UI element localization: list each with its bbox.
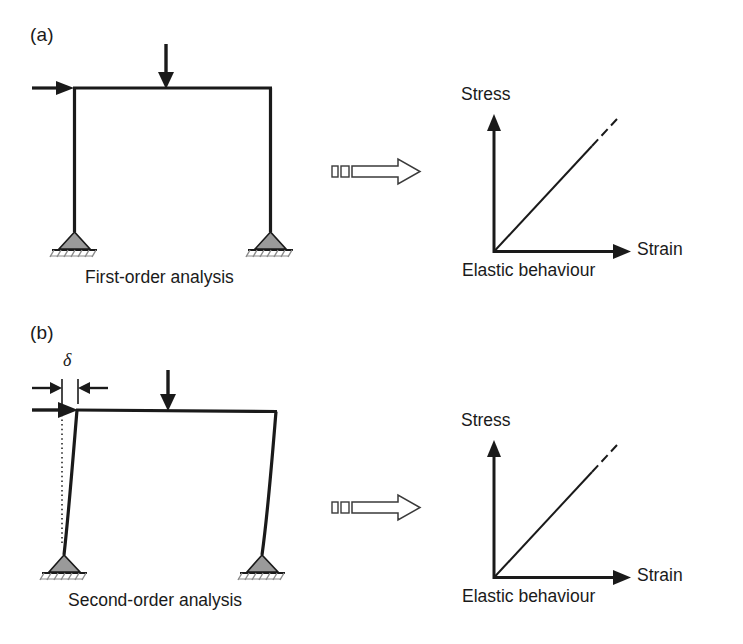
horizontal-load-arrow <box>32 402 78 418</box>
ground-hatch-left <box>40 573 86 580</box>
chart-y-axis-arrowhead <box>487 114 501 131</box>
block-arrow-right-icon <box>332 495 420 520</box>
frame-column-right <box>262 412 276 556</box>
vertical-load-arrow <box>158 44 174 89</box>
ground-hatch-left <box>50 250 96 257</box>
panel-a-caption: First-order analysis <box>85 267 234 288</box>
pin-support-right <box>246 232 293 257</box>
chart-a-caption: Elastic behaviour <box>462 260 595 281</box>
ground-hatch-right <box>238 573 284 580</box>
horizontal-load-arrow <box>32 81 74 95</box>
block-arrow-right-icon <box>332 159 420 184</box>
panel-first-order: (a) <box>0 0 743 322</box>
elastic-line-dashed <box>592 119 617 146</box>
chart-b-xlabel: Strain <box>637 565 683 586</box>
panel-b-caption: Second-order analysis <box>68 590 242 611</box>
elastic-line-solid <box>494 146 592 252</box>
panel-second-order: (b) <box>0 322 743 644</box>
portal-frame-undeformed <box>73 88 272 232</box>
chart-b-ylabel: Stress <box>461 410 511 431</box>
chart-a-xlabel: Strain <box>637 239 683 260</box>
pin-support-right <box>238 555 285 580</box>
chart-x-axis-arrowhead <box>613 570 631 585</box>
chart-b-caption: Elastic behaviour <box>462 586 595 607</box>
stress-strain-chart-a <box>487 114 631 259</box>
stress-strain-chart-b <box>487 440 631 585</box>
sway-dimension-delta <box>32 379 108 404</box>
elastic-line-dashed <box>592 445 617 472</box>
pin-support-left <box>50 232 97 257</box>
ground-hatch-right <box>246 250 292 257</box>
elastic-line-solid <box>494 472 592 578</box>
chart-x-axis-arrowhead <box>613 244 631 259</box>
vertical-load-arrow <box>160 370 176 411</box>
portal-frame-deformed <box>64 410 277 555</box>
chart-a-ylabel: Stress <box>461 84 511 105</box>
chart-y-axis-arrowhead <box>487 440 501 457</box>
delta-symbol-label: δ <box>63 350 71 371</box>
figure-root: (a) <box>0 0 743 644</box>
frame-beam <box>76 410 277 412</box>
pin-support-left <box>40 555 87 580</box>
frame-column-left <box>64 410 77 555</box>
